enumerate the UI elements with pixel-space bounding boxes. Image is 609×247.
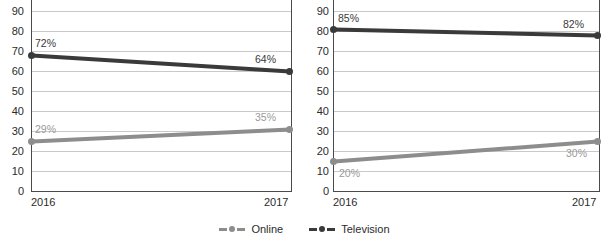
legend-label-television: Television	[341, 224, 389, 235]
y-tick-label: 40	[0, 106, 24, 117]
x-tick-label-2016: 2016	[333, 197, 357, 208]
y-tick-label: 60	[0, 66, 24, 77]
x-tick-label-2017: 2017	[264, 197, 288, 208]
data-point-online-2016	[330, 158, 337, 165]
data-point-online-2017	[594, 138, 601, 145]
y-tick-label: 30	[0, 126, 24, 137]
x-tick-label-2017: 2017	[572, 197, 596, 208]
chart-legend: Online Television	[0, 211, 609, 247]
legend-item-online[interactable]: Online	[219, 224, 283, 235]
y-tick-label: 0	[0, 186, 24, 197]
data-point-online-2016	[28, 138, 35, 145]
data-label-online-2016: 20%	[339, 168, 360, 179]
legend-item-television[interactable]: Television	[309, 224, 389, 235]
y-tick-label: 90	[305, 6, 329, 17]
data-point-television-2016	[330, 26, 337, 33]
series-lines-left	[31, 0, 292, 192]
y-tick-label: 10	[305, 166, 329, 177]
data-label-online-2016: 29%	[35, 124, 56, 135]
data-label-online-2017: 30%	[566, 148, 587, 159]
y-tick-label: 30	[305, 126, 329, 137]
y-tick-label: 40	[305, 106, 329, 117]
y-tick-label: 70	[305, 46, 329, 57]
legend-marker-television-icon	[309, 226, 335, 232]
data-label-television-2017: 82%	[563, 19, 584, 30]
y-tick-label: 80	[0, 26, 24, 37]
data-label-television-2016: 72%	[35, 38, 56, 49]
data-label-television-2017: 64%	[255, 54, 276, 65]
y-tick-label: 20	[305, 146, 329, 157]
y-tick-label: 90	[0, 6, 24, 17]
data-label-online-2017: 35%	[255, 112, 276, 123]
plot-area-right: 85% 82% 20% 30% 2016 2017	[333, 0, 600, 192]
chart-panel-left: 90 80 70 60 50 40 30 20 10 0	[0, 0, 300, 211]
y-tick-label: 50	[305, 86, 329, 97]
legend-label-online: Online	[251, 224, 283, 235]
y-tick-label: 50	[0, 86, 24, 97]
series-line-online	[32, 130, 290, 142]
series-lines-right	[333, 0, 600, 192]
y-tick-label: 20	[0, 146, 24, 157]
charts-container: 90 80 70 60 50 40 30 20 10 0	[0, 0, 609, 211]
y-tick-label: 80	[305, 26, 329, 37]
data-label-television-2016: 85%	[338, 13, 359, 24]
data-point-television-2016	[28, 52, 35, 59]
y-tick-label: 10	[0, 166, 24, 177]
legend-marker-online-icon	[219, 226, 245, 232]
y-tick-label: 0	[305, 186, 329, 197]
chart-panel-right: 90 80 70 60 50 40 30 20 10 0	[305, 0, 609, 211]
data-point-television-2017	[286, 68, 293, 75]
plot-area-left: 72% 64% 29% 35% 2016 2017	[31, 0, 292, 192]
x-tick-label-2016: 2016	[31, 197, 55, 208]
data-point-television-2017	[594, 32, 601, 39]
series-line-television	[334, 30, 598, 36]
series-line-television	[32, 56, 290, 72]
series-line-online	[334, 142, 598, 162]
y-tick-label: 70	[0, 46, 24, 57]
y-tick-label: 60	[305, 66, 329, 77]
data-point-online-2017	[286, 126, 293, 133]
